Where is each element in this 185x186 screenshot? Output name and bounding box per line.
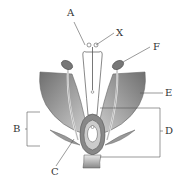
left-anther [60, 59, 74, 72]
label-F: F [153, 42, 160, 52]
leader-F [123, 47, 150, 62]
right-anther [111, 59, 125, 72]
leader-C [56, 139, 74, 166]
label-A: A [67, 8, 74, 18]
flower-diagram [0, 0, 185, 186]
egg-cell [91, 126, 94, 129]
label-B: B [13, 124, 20, 134]
label-C: C [51, 167, 59, 177]
leader-X [96, 33, 114, 45]
label-E: E [165, 88, 172, 98]
stigma-left [87, 43, 91, 47]
bracket-B [27, 112, 40, 146]
leader-A [74, 22, 85, 45]
receptacle [83, 155, 101, 168]
label-X: X [116, 28, 123, 38]
pollen-tube-tip [91, 91, 94, 94]
label-D: D [165, 126, 173, 136]
